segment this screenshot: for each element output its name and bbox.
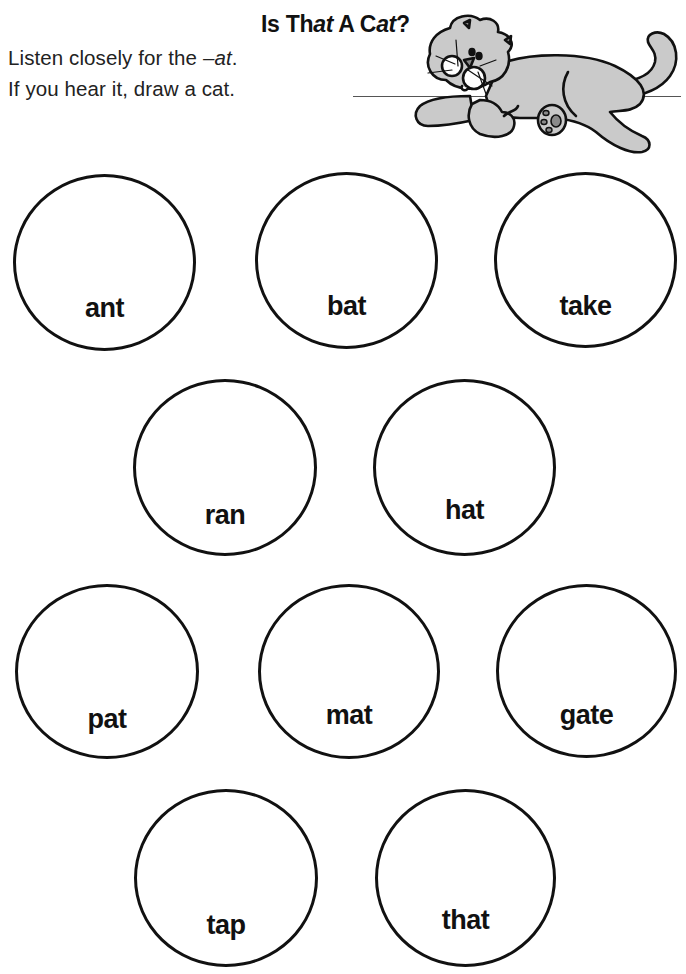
- word-label: hat: [376, 495, 553, 526]
- word-label: gate: [499, 700, 674, 731]
- drawing-circle-that[interactable]: that: [375, 789, 556, 967]
- title-part: Is Th: [261, 11, 313, 37]
- cat-illustration-icon: [400, 10, 686, 160]
- word-label: bat: [258, 291, 435, 322]
- drawing-circle-mat[interactable]: mat: [258, 584, 440, 759]
- title-part-italic: at: [313, 11, 333, 37]
- title-part-italic: at: [376, 11, 396, 37]
- drawing-circle-ran[interactable]: ran: [133, 379, 317, 556]
- word-label: ant: [16, 293, 193, 324]
- worksheet-title: Is That A Cat?: [261, 11, 410, 38]
- drawing-circle-ant[interactable]: ant: [13, 174, 196, 351]
- title-part: A C: [333, 11, 376, 37]
- instruction-italic-sound: –at: [203, 46, 232, 69]
- instruction-text: .: [232, 46, 238, 69]
- drawing-circle-pat[interactable]: pat: [15, 584, 199, 759]
- drawing-circle-hat[interactable]: hat: [373, 379, 556, 556]
- word-label: tap: [137, 910, 315, 941]
- word-label: take: [497, 291, 674, 322]
- drawing-circle-tap[interactable]: tap: [134, 789, 318, 967]
- word-label: that: [378, 905, 553, 936]
- instruction-text: Listen closely for the: [8, 46, 203, 69]
- instruction-line-1: Listen closely for the –at.: [8, 46, 237, 70]
- instruction-line-2: If you hear it, draw a cat.: [8, 77, 235, 101]
- word-label: pat: [18, 704, 196, 735]
- drawing-circle-gate[interactable]: gate: [496, 584, 677, 758]
- word-label: mat: [261, 700, 437, 731]
- word-label: ran: [136, 500, 314, 531]
- drawing-circle-bat[interactable]: bat: [255, 172, 438, 349]
- drawing-circle-take[interactable]: take: [494, 172, 677, 348]
